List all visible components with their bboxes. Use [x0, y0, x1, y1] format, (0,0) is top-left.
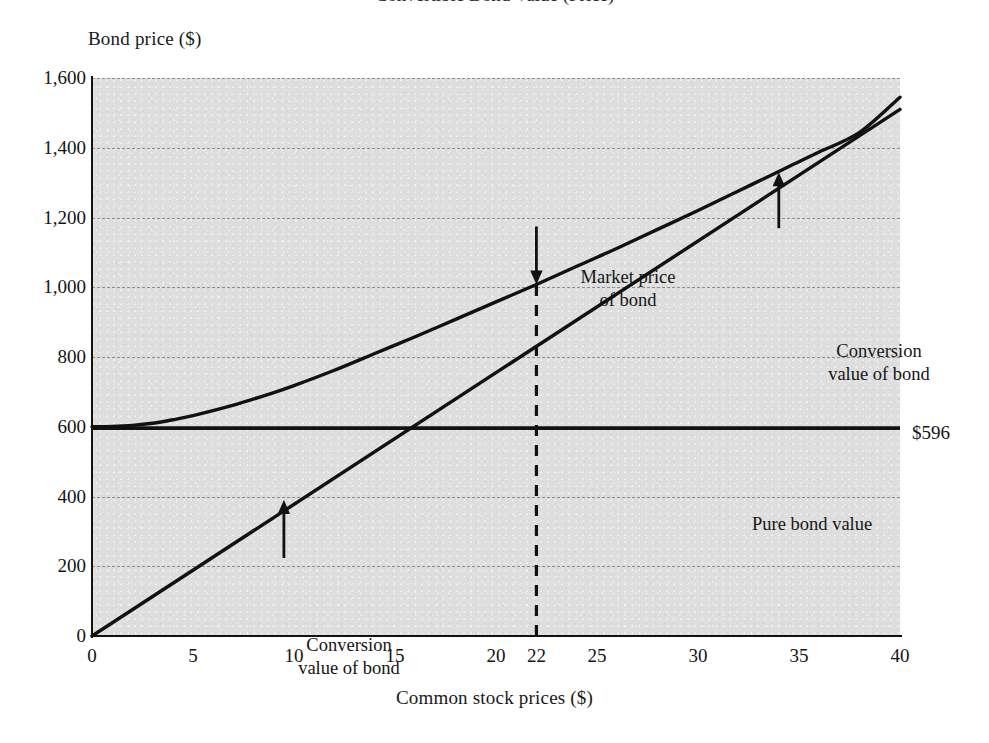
annotation-conversion-upper-line1: Conversion	[789, 340, 969, 363]
y-axis-line	[91, 76, 93, 638]
cut-off-title: Convertible Bond Value (Price)	[0, 0, 989, 9]
annotation-market-price-line2: of bond	[543, 289, 713, 312]
annotation-conversion-upper-line2: value of bond	[789, 363, 969, 386]
annotation-market-price-line1: Market price	[543, 266, 713, 289]
annotation-market-price-of-bond: Market price of bond	[543, 266, 713, 311]
y-tick-label-400: 400	[8, 486, 86, 508]
y-tick-label-600: 600	[8, 416, 86, 438]
x-tick-label-10: 10	[285, 645, 304, 667]
y-tick-label-1600: 1,600	[8, 67, 86, 89]
arrow-market-price-down	[530, 226, 542, 284]
annotation-conversion-value-lower: Conversion value of bond	[254, 634, 444, 679]
data-curves	[92, 78, 900, 636]
x-tick-label-40: 40	[891, 645, 910, 667]
annotation-conversion-lower-line1: Conversion	[254, 634, 444, 657]
x-tick-label-30: 30	[689, 645, 708, 667]
plot-area: Market price of bond Conversion value of…	[92, 78, 900, 636]
y-tick-label-200: 200	[8, 555, 86, 577]
y-tick-label-1200: 1,200	[8, 207, 86, 229]
x-axis-title: Common stock prices ($)	[0, 687, 989, 709]
y-tick-label-1000: 1,000	[8, 276, 86, 298]
figure-convertible-bond-value: Convertible Bond Value (Price) Bond pric…	[0, 0, 989, 743]
x-tick-label-5: 5	[188, 645, 198, 667]
x-tick-label-0: 0	[87, 645, 97, 667]
y-tick-label-0: 0	[8, 625, 86, 647]
y-axis-tick-labels: 02004006008001,0001,2001,4001,600	[0, 0, 86, 743]
annotation-conversion-value-upper: Conversion value of bond	[789, 340, 969, 385]
annotation-conversion-lower-line2: value of bond	[254, 657, 444, 680]
cut-off-title-text: Convertible Bond Value (Price)	[0, 0, 989, 6]
y-tick-label-1400: 1,400	[8, 137, 86, 159]
x-tick-label-20: 20	[487, 645, 506, 667]
y-axis-title: Bond price ($)	[88, 28, 202, 50]
x-tick-label-22: 22	[527, 645, 546, 667]
curve-market-price-of-bond	[92, 97, 900, 427]
x-tick-label-35: 35	[790, 645, 809, 667]
y-tick-label-800: 800	[8, 346, 86, 368]
pure-bond-value-amount-label: $596	[912, 422, 950, 444]
arrow-conversion-upper-up	[773, 172, 785, 228]
x-axis-line	[91, 635, 902, 637]
annotation-pure-bond-value: Pure bond value	[752, 514, 872, 535]
x-tick-label-15: 15	[386, 645, 405, 667]
x-tick-label-25: 25	[588, 645, 607, 667]
